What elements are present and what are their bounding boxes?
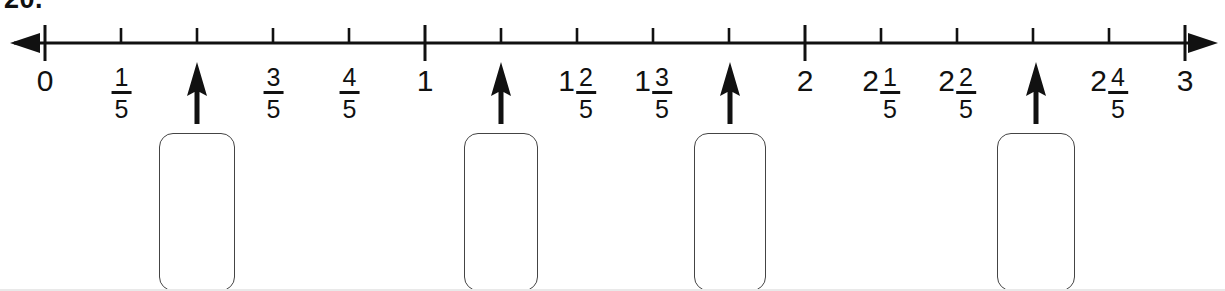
fraction: 45: [340, 64, 360, 123]
tick-label-3: 35: [263, 64, 284, 123]
tick-label-whole: 1: [634, 64, 651, 98]
number-line-worksheet-item: 20. 0153545112513522152252453: [0, 0, 1225, 291]
fraction-numerator: 4: [1108, 64, 1128, 91]
tick-label-14: 245: [1090, 64, 1128, 123]
tick-label-whole: 1: [558, 64, 575, 98]
fraction: 25: [956, 64, 976, 123]
answer-box-2[interactable]: [464, 133, 538, 291]
answer-box-1[interactable]: [159, 133, 235, 291]
fraction: 15: [112, 64, 132, 123]
fraction-numerator: 3: [652, 64, 672, 91]
tick-label-whole: 2: [938, 64, 955, 98]
fraction-denominator: 5: [264, 94, 284, 123]
tick-label-whole: 2: [797, 64, 814, 98]
tick-label-whole: 2: [862, 64, 879, 98]
tick-label-whole: 3: [1177, 64, 1194, 98]
tick-label-11: 215: [862, 64, 900, 123]
tick-label-12: 225: [938, 64, 976, 123]
answer-box-3[interactable]: [694, 133, 766, 291]
tick-label-1: 15: [111, 64, 132, 123]
tick-label-10: 2: [797, 64, 814, 98]
tick-label-0: 0: [37, 64, 54, 98]
fraction: 15: [880, 64, 900, 123]
fraction-numerator: 4: [340, 64, 360, 91]
tick-label-whole: 2: [1090, 64, 1107, 98]
tick-label-whole: 0: [37, 64, 54, 98]
tick-label-5: 1: [417, 64, 434, 98]
fraction-denominator: 5: [576, 94, 596, 123]
fraction-denominator: 5: [112, 94, 132, 123]
fraction-numerator: 1: [112, 64, 132, 91]
fraction-denominator: 5: [1108, 94, 1128, 123]
fraction: 25: [576, 64, 596, 123]
tick-label-15: 3: [1177, 64, 1194, 98]
tick-label-7: 125: [558, 64, 596, 123]
fraction-numerator: 1: [880, 64, 900, 91]
answer-box-4[interactable]: [997, 133, 1075, 291]
fraction-denominator: 5: [880, 94, 900, 123]
tick-label-whole: 1: [417, 64, 434, 98]
fraction-numerator: 2: [576, 64, 596, 91]
fraction-denominator: 5: [652, 94, 672, 123]
fraction: 45: [1108, 64, 1128, 123]
fraction: 35: [264, 64, 284, 123]
fraction-denominator: 5: [340, 94, 360, 123]
fraction: 35: [652, 64, 672, 123]
tick-label-4: 45: [339, 64, 360, 123]
fraction-denominator: 5: [956, 94, 976, 123]
fraction-numerator: 3: [264, 64, 284, 91]
fraction-numerator: 2: [956, 64, 976, 91]
tick-label-8: 135: [634, 64, 672, 123]
